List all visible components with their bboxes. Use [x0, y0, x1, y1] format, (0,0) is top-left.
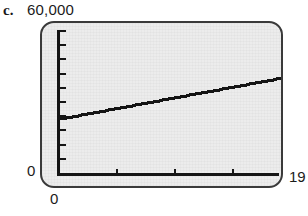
data-line-series: [60, 77, 281, 120]
figure-panel: c. 60,000 0 0 19: [0, 0, 308, 216]
x-axis-max-label: 19: [289, 168, 306, 185]
x-axis-line: [57, 173, 279, 176]
part-label: c.: [3, 2, 13, 18]
line-chart: [42, 23, 281, 186]
chart-axes: [57, 30, 279, 176]
y-axis-ticks: [60, 30, 66, 160]
y-axis-max-label: 60,000: [27, 1, 74, 18]
y-axis-line: [57, 30, 60, 175]
x-axis-min-label: 0: [50, 190, 58, 207]
x-axis-ticks: [116, 169, 234, 174]
y-axis-min-label: 0: [27, 162, 35, 179]
calculator-screen: [40, 21, 283, 188]
